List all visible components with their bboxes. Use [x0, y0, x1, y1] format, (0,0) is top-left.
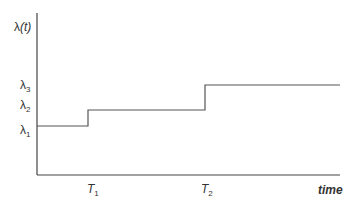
y-tick-lambda3: λ3 [20, 78, 30, 94]
y-axis-label: λ(t) [14, 20, 31, 34]
x-tick-t2-sub: 2 [208, 189, 212, 198]
step-function-line [37, 85, 340, 126]
y-tick-lambda3-sub: 3 [26, 85, 30, 94]
x-tick-t1: T1 [87, 182, 99, 198]
y-tick-lambda1: λ1 [20, 123, 30, 139]
y-tick-lambda2: λ2 [20, 98, 30, 114]
x-tick-t2: T2 [201, 182, 213, 198]
x-tick-t1-sub: 1 [94, 189, 98, 198]
y-tick-lambda2-sub: 2 [26, 105, 30, 114]
x-axis-label: time [318, 183, 343, 197]
chart-canvas [0, 0, 360, 205]
y-label-arg: (t) [20, 20, 31, 34]
y-tick-lambda1-sub: 1 [26, 130, 30, 139]
